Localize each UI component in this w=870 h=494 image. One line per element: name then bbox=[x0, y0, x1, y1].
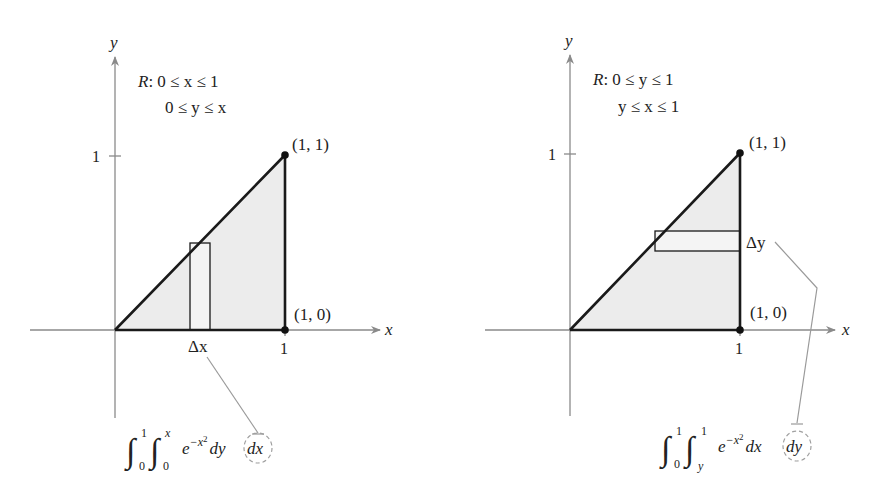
left-integral: ∫ 1 0 ∫ x 0 e−x2dy dx bbox=[124, 426, 264, 473]
right-strip-rect bbox=[655, 231, 740, 251]
right-x-tick-label: 1 bbox=[735, 340, 743, 357]
right-point-1-1 bbox=[736, 149, 744, 157]
left-x-tick-label: 1 bbox=[280, 340, 288, 357]
left-inner-upper: x bbox=[164, 426, 171, 440]
right-inner-integral-sign: ∫ bbox=[683, 430, 697, 470]
right-integral: ∫ 1 0 ∫ 1 y e−x2dx dy bbox=[659, 424, 803, 473]
left-y-tick-label: 1 bbox=[92, 148, 100, 165]
left-outer-differential: dx bbox=[247, 439, 264, 458]
left-inner-integral-sign: ∫ bbox=[148, 432, 162, 472]
right-x-axis-label: x bbox=[841, 320, 850, 339]
right-inner-upper: 1 bbox=[701, 424, 707, 438]
left-region-line1: R: 0 ≤ x ≤ 1 bbox=[137, 72, 219, 91]
left-integrand: e−x2dy bbox=[182, 434, 226, 458]
right-leader-line bbox=[775, 242, 817, 423]
right-point-top-label: (1, 1) bbox=[749, 133, 786, 152]
left-point-top-label: (1, 1) bbox=[292, 135, 329, 154]
right-outer-lower: 0 bbox=[674, 457, 680, 471]
right-point-bottom-label: (1, 0) bbox=[750, 303, 787, 322]
left-outer-integral-sign: ∫ bbox=[124, 432, 138, 472]
left-x-axis-label: x bbox=[384, 320, 393, 339]
figure-canvas: y x 1 1 R: 0 ≤ x ≤ 1 0 ≤ y ≤ x (1, 1) (1… bbox=[0, 0, 870, 494]
right-y-axis-label: y bbox=[563, 31, 573, 50]
right-outer-integral-sign: ∫ bbox=[659, 430, 673, 470]
left-inner-lower: 0 bbox=[163, 459, 169, 473]
right-figure: y x 1 1 R: 0 ≤ y ≤ 1 y ≤ x ≤ 1 (1, 1) (1… bbox=[485, 31, 850, 473]
right-region-line1: R: 0 ≤ y ≤ 1 bbox=[592, 70, 674, 89]
right-strip-label: Δy bbox=[746, 233, 766, 252]
right-point-1-0 bbox=[736, 326, 744, 334]
right-inner-lower: y bbox=[697, 459, 704, 473]
right-integrand: e−x2dx bbox=[718, 432, 762, 456]
right-outer-upper: 1 bbox=[676, 424, 682, 438]
left-outer-lower: 0 bbox=[139, 459, 145, 473]
left-region-line2: 0 ≤ y ≤ x bbox=[165, 98, 227, 117]
right-outer-differential: dy bbox=[786, 437, 803, 456]
left-strip-label: Δx bbox=[188, 337, 208, 356]
right-y-tick-label: 1 bbox=[548, 146, 556, 163]
right-region-line2: y ≤ x ≤ 1 bbox=[618, 97, 679, 116]
left-strip-rect bbox=[190, 243, 210, 330]
left-point-bottom-label: (1, 0) bbox=[294, 305, 331, 324]
left-point-1-0 bbox=[281, 326, 289, 334]
left-figure: y x 1 1 R: 0 ≤ x ≤ 1 0 ≤ y ≤ x (1, 1) (1… bbox=[30, 33, 393, 473]
left-outer-upper: 1 bbox=[141, 426, 147, 440]
left-y-axis-label: y bbox=[108, 33, 118, 52]
left-point-1-1 bbox=[281, 151, 289, 159]
left-leader-line bbox=[207, 357, 258, 433]
